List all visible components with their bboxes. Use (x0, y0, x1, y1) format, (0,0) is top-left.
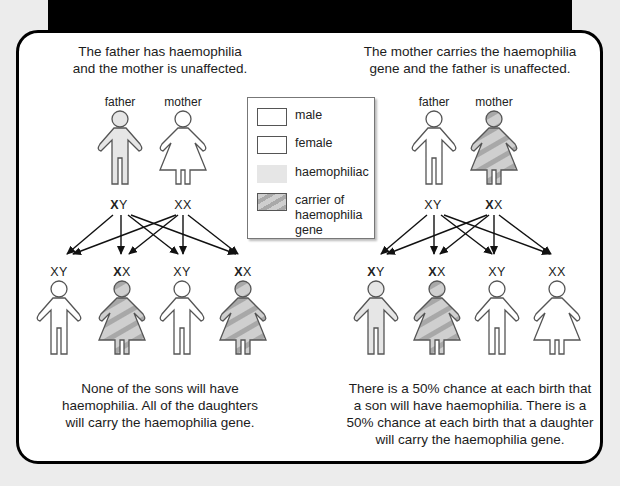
right-son-2-figure-unaffected (471, 280, 523, 360)
left-child-1-genotype: XY (39, 265, 79, 279)
legend: male female haemophiliac carrier of haem… (247, 97, 375, 239)
left-daughter-1-figure-carrier (96, 280, 148, 360)
left-daughter-2-figure-carrier (217, 280, 269, 360)
left-child-3-genotype: XY (162, 265, 202, 279)
haemophiliac-swatch-icon (257, 165, 287, 183)
carrier-swatch-icon (257, 193, 287, 211)
legend-item-female: female (257, 136, 333, 154)
right-mother-label: mother (464, 95, 524, 109)
right-father-genotype: XY (413, 198, 453, 212)
left-panel-conclusion: None of the sons will have haemophilia. … (40, 380, 280, 431)
right-daughter-1-figure-carrier (411, 280, 463, 360)
left-child-4-genotype: XX (223, 265, 263, 279)
male-swatch-icon (257, 108, 287, 126)
left-son-1-figure-unaffected (33, 280, 85, 360)
female-swatch-icon (257, 136, 287, 154)
legend-item-haemophiliac: haemophiliac (257, 165, 369, 183)
right-child-1-genotype: XY (356, 265, 396, 279)
left-son-2-figure-unaffected (156, 280, 208, 360)
left-child-2-genotype: XX (102, 265, 142, 279)
right-father-label: father (404, 95, 464, 109)
right-panel-conclusion: There is a 50% chance at each birth that… (340, 380, 600, 448)
legend-item-carrier: carrier of haemophilia gene (257, 193, 362, 238)
right-child-2-genotype: XX (417, 265, 457, 279)
right-father-figure-unaffected (408, 110, 460, 190)
right-mother-figure-carrier (468, 110, 520, 190)
right-son-1-figure-haemophiliac (350, 280, 402, 360)
right-panel-title: The mother carries the haemophilia gene … (340, 43, 600, 77)
right-daughter-2-figure-unaffected (531, 280, 583, 360)
right-mother-genotype: XX (474, 198, 514, 212)
right-child-4-genotype: XX (537, 265, 577, 279)
legend-item-male: male (257, 108, 322, 126)
right-child-3-genotype: XY (477, 265, 517, 279)
